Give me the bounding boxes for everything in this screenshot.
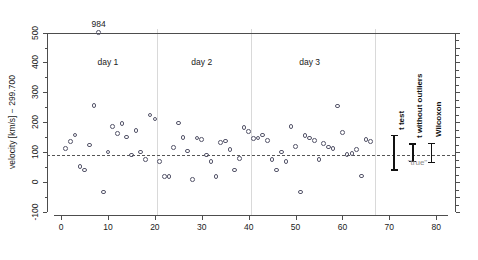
right-axis-minor-tick (456, 145, 459, 146)
y-axis-minor-tick (45, 77, 48, 78)
data-point (214, 174, 219, 179)
outlier-value-label: 984 (91, 20, 105, 29)
y-axis-tick-label: 400 (31, 55, 40, 69)
error-bar-cap (428, 162, 435, 163)
x-axis-tick-label: 70 (385, 223, 394, 232)
y-axis-minor-tick (45, 107, 48, 108)
data-point (143, 157, 148, 162)
data-point (265, 138, 270, 143)
y-axis-tick-label: 100 (31, 145, 40, 159)
y-axis-tick (43, 182, 47, 183)
y-axis-title: velocity [km/s] − 299.700 (8, 75, 17, 169)
y-axis-tick (43, 212, 47, 213)
y-axis-line (47, 33, 48, 212)
data-point (68, 139, 73, 144)
error-bar-1 (393, 136, 395, 170)
right-axis-minor-tick (456, 33, 460, 34)
x-axis-tick (296, 216, 297, 220)
day-label: day 2 (191, 58, 212, 67)
data-point (293, 144, 298, 149)
x-axis-tick-label: 60 (338, 223, 347, 232)
x-axis-tick (342, 216, 343, 220)
data-point (345, 152, 350, 157)
data-point (92, 103, 97, 108)
right-axis-minor-tick (456, 40, 459, 41)
data-point (181, 135, 186, 140)
day-label: day 3 (299, 58, 320, 67)
data-point (96, 30, 101, 35)
data-point (326, 145, 331, 150)
data-point (317, 157, 322, 162)
data-point (335, 104, 340, 109)
right-axis-minor-tick (456, 92, 460, 93)
error-bar-label: t test (398, 111, 406, 130)
error-bar-3 (431, 143, 433, 162)
y-axis-tick-label: 0 (31, 180, 40, 185)
right-axis-minor-tick (456, 160, 459, 161)
error-bar-cap (409, 143, 416, 144)
data-point (162, 174, 167, 179)
x-axis-tick-label: 40 (244, 223, 253, 232)
data-point (101, 190, 106, 195)
x-axis-tick-label: 80 (432, 223, 441, 232)
data-point (237, 156, 242, 161)
y-axis-minor-tick (45, 48, 48, 49)
error-bar-cap (391, 135, 398, 136)
data-point (176, 121, 181, 126)
data-point (120, 121, 125, 126)
x-axis-tick (155, 216, 156, 220)
y-axis-tick (43, 92, 47, 93)
data-point (167, 174, 172, 179)
x-axis-tick (249, 216, 250, 220)
right-axis-minor-tick (456, 130, 459, 131)
data-point (331, 146, 336, 151)
right-axis-minor-tick (456, 100, 459, 101)
data-point (354, 147, 359, 152)
y-axis-tick-label: 500 (31, 25, 40, 39)
data-point (321, 141, 326, 146)
day-separator-2 (251, 29, 252, 215)
right-axis-minor-tick (456, 190, 459, 191)
day-separator-3 (375, 29, 376, 215)
data-point (204, 153, 209, 158)
data-point (87, 143, 92, 148)
right-axis-minor-tick (456, 167, 460, 168)
data-point (359, 174, 364, 179)
right-axis-minor-tick (456, 197, 460, 198)
y-axis-tick-label: 200 (31, 115, 40, 129)
right-axis-minor-tick (456, 107, 460, 108)
right-axis-minor-tick (456, 85, 459, 86)
data-point (199, 137, 204, 142)
y-axis-tick (43, 33, 47, 34)
y-axis-tick (43, 122, 47, 123)
y-axis-tick-label: 300 (31, 85, 40, 99)
error-bar-label: Wilcoxon (435, 102, 443, 137)
x-axis-tick (389, 216, 390, 220)
x-axis-tick-label: 0 (59, 223, 64, 232)
data-point (129, 153, 134, 158)
data-point (110, 124, 115, 129)
error-bar-cap (391, 169, 398, 170)
right-axis-minor-tick (456, 175, 459, 176)
data-point (270, 157, 275, 162)
data-point (138, 150, 143, 155)
right-axis-minor-tick (456, 62, 460, 63)
data-point (209, 159, 214, 164)
data-point (185, 149, 190, 154)
data-point (63, 146, 68, 151)
data-point (115, 131, 120, 136)
right-axis-minor-tick (456, 115, 459, 116)
data-point (228, 147, 233, 152)
data-point (246, 129, 251, 134)
data-point (260, 133, 265, 138)
right-axis-minor-tick (456, 152, 460, 153)
right-axis-minor-tick (456, 212, 460, 213)
right-axis-minor-tick (456, 137, 460, 138)
x-axis-tick (108, 216, 109, 220)
right-axis-minor-tick (456, 77, 460, 78)
right-axis-minor-tick (456, 182, 460, 183)
x-axis-tick (61, 216, 62, 220)
data-point (190, 177, 195, 182)
data-point (171, 145, 176, 150)
error-bar-label: t without outliers (416, 73, 424, 137)
